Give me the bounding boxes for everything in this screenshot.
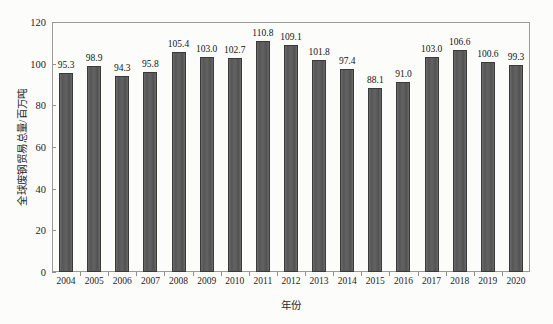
x-tick-mark: [249, 272, 250, 276]
bar: [143, 72, 157, 272]
bar-value-label: 98.9: [74, 53, 114, 63]
x-tick-mark: [333, 272, 334, 276]
bar-value-label: 91.0: [383, 69, 423, 79]
y-tick-label: 120: [16, 17, 46, 28]
bar: [256, 41, 270, 272]
x-tick-mark: [474, 272, 475, 276]
bar-value-label: 99.3: [496, 52, 536, 62]
bar: [200, 57, 214, 272]
x-tick-mark: [361, 272, 362, 276]
bar: [481, 62, 495, 272]
bars-layer: 95.398.994.395.8105.4103.0102.7110.8109.…: [52, 22, 530, 272]
bar-value-label: 102.7: [215, 45, 255, 55]
bar: [509, 65, 523, 272]
x-tick-mark: [418, 272, 419, 276]
bar-value-label: 95.8: [130, 59, 170, 69]
x-tick-mark: [164, 272, 165, 276]
bar: [59, 73, 73, 272]
x-tick-mark: [193, 272, 194, 276]
y-tick-label: 80: [16, 100, 46, 111]
x-tick-mark: [305, 272, 306, 276]
bar: [340, 69, 354, 272]
bar: [312, 60, 326, 272]
bar: [425, 57, 439, 272]
bar: [368, 88, 382, 272]
x-tick-mark: [389, 272, 390, 276]
y-tick-mark: [52, 272, 56, 273]
x-tick-label: 2020: [499, 276, 533, 286]
x-tick-mark: [136, 272, 137, 276]
y-tick-label: 40: [16, 183, 46, 194]
x-tick-mark: [446, 272, 447, 276]
bar: [453, 50, 467, 272]
bar: [115, 76, 129, 272]
x-tick-mark: [108, 272, 109, 276]
x-tick-mark: [277, 272, 278, 276]
x-tick-mark: [502, 272, 503, 276]
y-tick-label: 100: [16, 58, 46, 69]
bar: [396, 82, 410, 272]
x-axis-title: 年份: [52, 297, 530, 312]
y-tick-label: 60: [16, 142, 46, 153]
y-tick-label: 20: [16, 225, 46, 236]
bar: [284, 45, 298, 272]
bar: [172, 52, 186, 272]
bar: [87, 66, 101, 272]
bar-value-label: 109.1: [271, 32, 311, 42]
x-tick-mark: [221, 272, 222, 276]
bar-value-label: 106.6: [440, 37, 480, 47]
x-tick-mark: [80, 272, 81, 276]
bar-value-label: 97.4: [327, 56, 367, 66]
scrap-steel-trade-bar-chart: 全球废钢贸易总量/百万吨 020406080100120 95.398.994.…: [0, 0, 553, 324]
y-tick-label: 0: [16, 267, 46, 278]
bar: [228, 58, 242, 272]
